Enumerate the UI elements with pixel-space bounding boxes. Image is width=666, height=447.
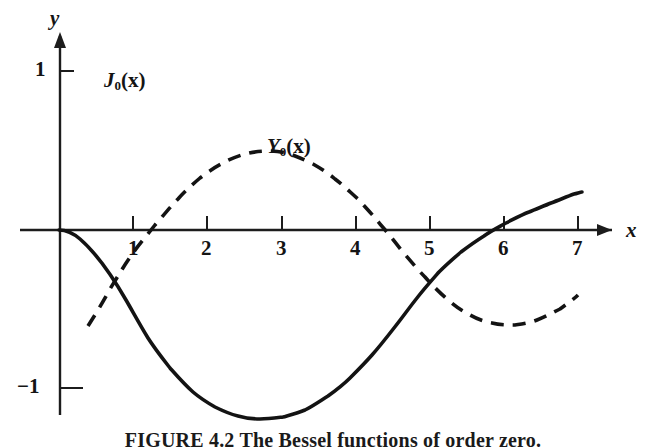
x-tick-label-4: 4 bbox=[350, 238, 361, 259]
x-tick-label-1: 1 bbox=[128, 238, 139, 259]
x-tick-label-2: 2 bbox=[201, 238, 212, 259]
bessel-plot bbox=[0, 0, 666, 447]
y-tick-label-1: 1 bbox=[35, 59, 46, 80]
x-axis-label: x bbox=[626, 220, 637, 241]
y-axis-group bbox=[54, 32, 66, 415]
curve-j0 bbox=[59, 192, 582, 419]
y-tick-label-neg1: −1 bbox=[17, 376, 39, 397]
j0-symbol: J bbox=[104, 68, 115, 92]
x-tick-marks bbox=[133, 216, 578, 230]
bessel-figure: y x 1 −1 1 2 3 4 5 6 7 J0(x) Y0(x) FIGUR… bbox=[0, 0, 666, 447]
curve-label-y0: Y0(x) bbox=[267, 136, 311, 158]
x-tick-label-7: 7 bbox=[572, 238, 583, 259]
x-tick-label-3: 3 bbox=[276, 238, 287, 259]
x-axis-group bbox=[20, 224, 612, 236]
y-axis-arrow-icon bbox=[54, 32, 66, 48]
figure-caption: FIGURE 4.2 The Bessel functions of order… bbox=[0, 429, 666, 447]
x-axis-arrow-icon bbox=[597, 224, 612, 236]
x-tick-label-6: 6 bbox=[498, 238, 509, 259]
y0-symbol: Y bbox=[267, 134, 280, 158]
x-tick-label-5: 5 bbox=[424, 238, 435, 259]
curve-label-j0: J0(x) bbox=[104, 70, 146, 92]
j0-argument: (x) bbox=[121, 68, 146, 92]
y0-argument: (x) bbox=[286, 134, 311, 158]
y-axis-label: y bbox=[50, 8, 59, 29]
